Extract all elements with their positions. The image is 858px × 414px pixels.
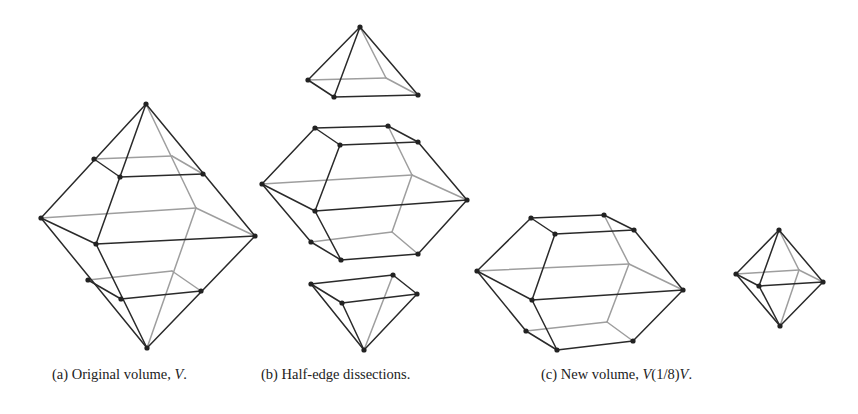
vertex — [414, 291, 419, 296]
visible-edge — [262, 184, 311, 242]
vertex — [631, 227, 636, 232]
visible-edge — [342, 294, 417, 303]
vertex — [312, 125, 317, 130]
top-pyramid — [305, 24, 420, 99]
visible-edge — [418, 200, 467, 254]
vertex — [259, 181, 264, 186]
visible-edge — [557, 341, 633, 350]
hidden-edge — [94, 156, 172, 159]
vertex — [93, 241, 98, 246]
visible-edge — [364, 294, 417, 350]
hidden-edge — [799, 270, 823, 282]
visible-edge — [94, 159, 120, 177]
visible-edge — [311, 275, 393, 284]
vertex — [331, 94, 336, 99]
caption-c-var: V — [642, 366, 651, 382]
visible-edge — [308, 27, 360, 80]
vertex — [200, 171, 205, 176]
hidden-edge — [736, 270, 799, 274]
visible-edge — [393, 275, 417, 294]
visible-edge — [634, 230, 683, 290]
vertex — [198, 288, 203, 293]
hidden-edge — [172, 271, 201, 291]
visible-edge — [477, 271, 526, 331]
vertex — [415, 251, 420, 256]
visible-edge — [334, 27, 360, 97]
hidden-edge — [386, 78, 418, 95]
vertex — [252, 233, 257, 238]
visible-edge — [315, 128, 340, 145]
hidden-edge — [629, 264, 683, 290]
hidden-edge — [262, 175, 412, 184]
vertex — [523, 328, 528, 333]
vertex — [339, 300, 344, 305]
vertex — [308, 239, 313, 244]
vertex — [312, 208, 317, 213]
visible-edge — [315, 126, 388, 128]
hidden-edge — [364, 275, 393, 350]
vertex — [756, 283, 761, 288]
vertex — [338, 257, 343, 262]
caption-a-suffix: . — [183, 366, 187, 382]
visible-edge — [308, 80, 334, 97]
vertex — [777, 323, 782, 328]
caption-c: (c) New volume, V(1/8)V. — [541, 366, 692, 383]
new-truncated-solid — [474, 212, 685, 352]
visible-edge — [41, 218, 96, 244]
visible-edge — [759, 230, 779, 286]
vertex — [415, 139, 420, 144]
visible-edge — [477, 271, 532, 300]
hidden-edge — [477, 264, 629, 271]
vertex — [554, 347, 559, 352]
visible-edge — [779, 230, 823, 282]
vertex — [820, 279, 825, 284]
visible-edge — [736, 274, 759, 286]
caption-c-suffix: (1/8)V. — [651, 366, 692, 382]
vertex — [464, 197, 469, 202]
hidden-edge — [526, 322, 607, 331]
caption-b: (b) Half-edge dissections. — [261, 366, 410, 383]
visible-edge — [315, 145, 340, 211]
vertex — [308, 281, 313, 286]
vertex — [38, 215, 43, 220]
visible-edge — [311, 284, 342, 303]
visible-edge — [315, 200, 467, 211]
vertex — [552, 231, 557, 236]
caption-a-var: V — [174, 366, 183, 382]
hidden-edge — [392, 232, 418, 254]
visible-edge — [531, 215, 604, 218]
caption-c-text: (c) New volume, — [541, 366, 642, 382]
visible-edge — [780, 282, 823, 326]
hidden-edge — [308, 78, 386, 80]
visible-edge — [334, 95, 418, 97]
vertex — [144, 345, 149, 350]
vertex — [630, 338, 635, 343]
hidden-edge — [780, 270, 799, 326]
hidden-edge — [41, 208, 196, 218]
visible-edge — [633, 290, 683, 341]
vertex — [337, 142, 342, 147]
visible-edge — [96, 104, 146, 244]
hidden-edge — [607, 264, 629, 322]
vertex — [528, 215, 533, 220]
visible-edge — [759, 282, 823, 286]
vertex — [118, 296, 123, 301]
vertex — [357, 24, 362, 29]
hidden-edge — [196, 208, 255, 236]
vertex — [91, 156, 96, 161]
hidden-edge — [604, 215, 629, 264]
vertex — [601, 212, 606, 217]
caption-a: (a) Original volume, V. — [52, 366, 187, 383]
visible-edge — [120, 174, 203, 177]
truncated-middle-solid — [259, 123, 469, 262]
vertex — [529, 297, 534, 302]
visible-edge — [418, 142, 467, 200]
visible-edge — [555, 230, 634, 234]
hidden-edge — [412, 175, 467, 200]
figure-canvas — [0, 0, 858, 414]
visible-edge — [531, 218, 555, 234]
visible-edge — [146, 104, 255, 236]
vertex — [385, 123, 390, 128]
vertex — [361, 347, 366, 352]
visible-edge — [262, 184, 315, 211]
